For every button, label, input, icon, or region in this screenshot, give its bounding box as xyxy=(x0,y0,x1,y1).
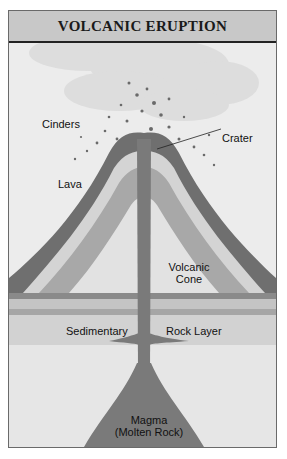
label-rock-layer: Rock Layer xyxy=(166,325,222,337)
label-cinders: Cinders xyxy=(42,118,80,130)
header-bar: VOLCANIC ERUPTION xyxy=(9,11,276,43)
label-volcanic-cone: Volcanic Cone xyxy=(159,261,219,285)
label-crater: Crater xyxy=(222,132,253,144)
label-magma-text: Magma xyxy=(109,414,189,426)
diagram-frame: VOLCANIC ERUPTION xyxy=(8,10,277,448)
volcano-illustration xyxy=(9,43,276,447)
label-sedimentary: Sedimentary xyxy=(66,325,128,337)
label-magma: Magma (Molten Rock) xyxy=(109,414,189,438)
label-lava: Lava xyxy=(58,178,82,190)
label-molten-rock: (Molten Rock) xyxy=(109,426,189,438)
label-cone: Cone xyxy=(159,273,219,285)
label-volcanic: Volcanic xyxy=(159,261,219,273)
conduit xyxy=(137,139,151,373)
diagram-title: VOLCANIC ERUPTION xyxy=(58,18,227,35)
